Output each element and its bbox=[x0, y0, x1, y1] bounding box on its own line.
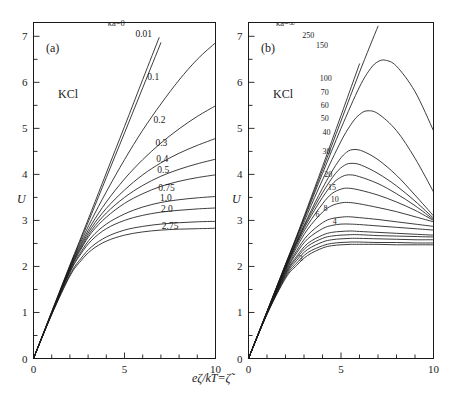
curve-label-0.5: 0.5 bbox=[157, 165, 169, 175]
y-tick-label: 7 bbox=[22, 30, 28, 42]
curve-label-1.0: 1.0 bbox=[160, 193, 172, 203]
y-tick-label: 3 bbox=[22, 214, 28, 226]
curve-label-2.75: 2.75 bbox=[162, 221, 179, 231]
x-axis-title: eζ/kT=ζ̃ bbox=[192, 371, 235, 385]
x-tick-label: 0 bbox=[246, 363, 252, 375]
curve-label-2.0: 2.0 bbox=[161, 204, 173, 214]
curve-label-100: 100 bbox=[320, 74, 332, 83]
curve-label-6: 6 bbox=[315, 210, 319, 219]
curve-label-3: 3 bbox=[299, 254, 303, 263]
panel-a-ylabel: U bbox=[17, 192, 27, 206]
curve-label-250: 250 bbox=[302, 31, 314, 40]
panel-b-annotation-kcl: KCl bbox=[273, 87, 294, 101]
panel-a-label: (a) bbox=[46, 41, 59, 55]
x-tick-label: 5 bbox=[122, 363, 128, 375]
y-tick-label: 0 bbox=[22, 353, 28, 365]
y-tick-label: 1 bbox=[22, 306, 28, 318]
x-tick-label: 10 bbox=[428, 363, 440, 375]
curve-label-150: 150 bbox=[316, 41, 328, 50]
panel-a-annotation-kcl: KCl bbox=[58, 87, 79, 101]
x-tick-label: 0 bbox=[31, 363, 37, 375]
y-tick-label: 6 bbox=[237, 76, 243, 88]
x-tick-label: 5 bbox=[338, 363, 344, 375]
curve-label-4: 4 bbox=[333, 217, 337, 226]
y-tick-label: 1 bbox=[237, 306, 243, 318]
curve-label-15: 15 bbox=[328, 183, 336, 192]
panel-b-ylabel: U bbox=[232, 192, 242, 206]
curve-label-30: 30 bbox=[323, 147, 331, 156]
curve-label-60: 60 bbox=[321, 101, 329, 110]
curve-label-70: 70 bbox=[321, 88, 329, 97]
figure-background bbox=[0, 0, 453, 406]
curve-label-κa=∞: κa=∞ bbox=[276, 18, 295, 28]
curve-label-40: 40 bbox=[323, 128, 331, 137]
y-tick-label: 7 bbox=[237, 30, 243, 42]
curve-label-0.3: 0.3 bbox=[155, 138, 167, 148]
y-tick-label: 6 bbox=[22, 76, 28, 88]
curve-label-0.75: 0.75 bbox=[158, 183, 175, 193]
curve-label-10: 10 bbox=[331, 195, 339, 204]
panel-b-label: (b) bbox=[261, 41, 275, 55]
y-tick-label: 2 bbox=[237, 260, 243, 272]
y-tick-label: 4 bbox=[22, 168, 28, 180]
y-tick-label: 5 bbox=[22, 122, 28, 134]
figure-electrophoretic-mobility: 051001234567 κa=00.010.10.20.30.40.50.75… bbox=[0, 0, 453, 406]
curve-label-20: 20 bbox=[324, 170, 332, 179]
y-tick-label: 3 bbox=[237, 214, 243, 226]
y-tick-label: 4 bbox=[237, 168, 243, 180]
y-tick-label: 0 bbox=[237, 353, 243, 365]
y-tick-label: 2 bbox=[22, 260, 28, 272]
curve-label-0.1: 0.1 bbox=[147, 72, 159, 82]
y-tick-label: 5 bbox=[237, 122, 243, 134]
curve-label-8: 8 bbox=[323, 204, 327, 213]
curve-label-50: 50 bbox=[321, 114, 329, 123]
curve-label-κa=0: κa=0 bbox=[108, 18, 125, 28]
curve-label-0.4: 0.4 bbox=[156, 154, 168, 164]
curve-label-0.01: 0.01 bbox=[135, 29, 152, 39]
curve-label-0.2: 0.2 bbox=[154, 115, 166, 125]
